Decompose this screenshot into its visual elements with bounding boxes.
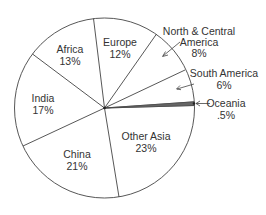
pct-china: 21% — [66, 160, 87, 172]
pct-south-america: 6% — [216, 79, 231, 91]
pie-center — [103, 107, 106, 110]
label-africa: Africa — [57, 43, 84, 55]
pct-other-asia: 23% — [135, 142, 156, 154]
label-india: India — [32, 92, 55, 104]
pct-india: 17% — [32, 104, 53, 116]
label-other-asia: Other Asia — [121, 130, 170, 142]
label-china: China — [63, 148, 91, 160]
pct-oceania: .5% — [217, 109, 235, 121]
pie-chart: Africa 13% Europe 12% North & Central Am… — [0, 0, 266, 215]
pct-nca: 8% — [191, 47, 206, 59]
label-south-america: South America — [190, 67, 258, 79]
oceania-marker — [193, 102, 196, 105]
label-oceania: Oceania — [206, 97, 245, 109]
pct-africa: 13% — [59, 55, 80, 67]
pct-europe: 12% — [109, 48, 130, 60]
label-europe: Europe — [103, 36, 137, 48]
